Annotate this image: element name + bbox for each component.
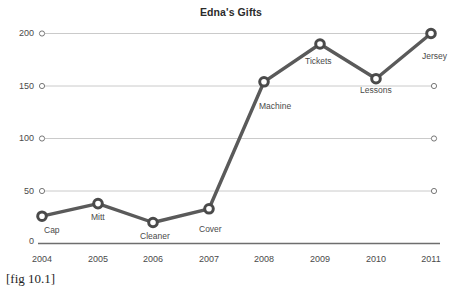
y-tick-marker-100-right <box>431 136 436 141</box>
line-chart-plot: 200 150 100 50 0 2004 2005 2006 2007 200… <box>0 0 462 272</box>
gridlines <box>45 34 434 192</box>
data-point-markers <box>38 29 436 227</box>
y-tick-label-0: 0 <box>8 236 34 246</box>
y-tick-marker-100-left <box>39 136 44 141</box>
data-point-2011[interactable] <box>427 29 436 38</box>
point-label-jersey: Jersey <box>422 51 447 61</box>
x-tick-label-2006: 2006 <box>133 254 173 264</box>
data-point-2008[interactable] <box>260 78 269 87</box>
y-tick-label-150: 150 <box>8 81 34 91</box>
x-tick-label-2008: 2008 <box>244 254 284 264</box>
data-line-series-1 <box>42 34 431 223</box>
data-point-2010[interactable] <box>372 74 381 83</box>
x-tick-label-2010: 2010 <box>356 254 396 264</box>
x-tick-label-2009: 2009 <box>300 254 340 264</box>
y-tick-markers-right <box>431 83 436 193</box>
point-label-cap: Cap <box>44 225 60 235</box>
point-label-tickets: Tickets <box>305 56 332 66</box>
y-tick-marker-50-right <box>431 188 436 193</box>
chart-svg <box>0 0 462 272</box>
y-tick-markers-left <box>39 31 44 194</box>
data-point-2005[interactable] <box>94 199 103 208</box>
data-point-2007[interactable] <box>205 205 214 214</box>
data-point-2004[interactable] <box>38 212 47 221</box>
data-point-2009[interactable] <box>316 40 325 49</box>
y-tick-label-50: 50 <box>8 186 34 196</box>
y-tick-marker-150-left <box>39 83 44 88</box>
figure-container: Edna's Gifts <box>0 0 462 272</box>
y-tick-marker-150-right <box>431 83 436 88</box>
y-tick-label-100: 100 <box>8 133 34 143</box>
point-label-cover: Cover <box>199 224 222 234</box>
point-label-mitt: Mitt <box>91 212 105 222</box>
point-label-cleaner: Cleaner <box>140 231 170 241</box>
x-tick-label-2005: 2005 <box>78 254 118 264</box>
y-tick-marker-200-left <box>39 31 44 36</box>
x-tick-label-2007: 2007 <box>189 254 229 264</box>
data-point-2006[interactable] <box>149 218 158 227</box>
point-label-machine: Machine <box>259 101 291 111</box>
x-tick-label-2011: 2011 <box>411 254 451 264</box>
x-tick-label-2004: 2004 <box>22 254 62 264</box>
point-label-lessons: Lessons <box>360 85 392 95</box>
y-tick-marker-50-left <box>39 188 44 193</box>
figure-caption: [fig 10.1] <box>6 271 55 287</box>
y-tick-label-200: 200 <box>8 28 34 38</box>
